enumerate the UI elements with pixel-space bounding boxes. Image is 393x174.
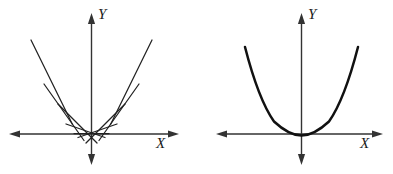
right-y-axis-arrow-down-icon bbox=[298, 154, 305, 165]
right-y-axis-arrow-up-icon bbox=[298, 13, 305, 24]
panel-right-smooth-parabola: X Y bbox=[197, 0, 393, 174]
right-x-axis-arrow-right-icon bbox=[372, 130, 383, 137]
right-y-axis-label: Y bbox=[308, 6, 318, 22]
tangent-segment-mid-right bbox=[99, 84, 139, 141]
left-x-axis-label: X bbox=[155, 135, 166, 151]
left-y-axis-label: Y bbox=[98, 6, 108, 22]
panel-left-tangent-approximation: X Y bbox=[0, 0, 196, 174]
left-y-axis-arrow-up-icon bbox=[88, 13, 95, 24]
figure-root: X Y X Y bbox=[0, 0, 393, 174]
right-y-axis bbox=[298, 13, 305, 165]
right-diagram-svg: X Y bbox=[197, 0, 393, 174]
left-diagram-svg: X Y bbox=[0, 0, 196, 174]
right-x-axis-arrow-left-icon bbox=[216, 130, 227, 137]
right-x-axis-label: X bbox=[359, 135, 370, 151]
left-y-axis bbox=[88, 13, 95, 165]
left-y-axis-arrow-down-icon bbox=[88, 154, 95, 165]
left-x-axis-arrow-right-icon bbox=[168, 130, 179, 137]
tangent-segment-mid-left bbox=[44, 84, 84, 141]
left-x-axis-arrow-left-icon bbox=[9, 130, 20, 137]
